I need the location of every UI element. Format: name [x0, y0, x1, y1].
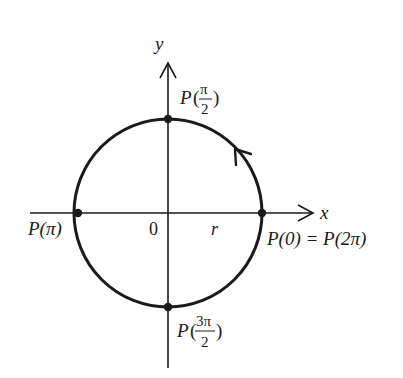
svg-text:3π: 3π	[196, 313, 212, 329]
svg-text:2: 2	[201, 101, 209, 117]
svg-text:P: P	[179, 87, 192, 108]
point-right	[258, 209, 266, 217]
point-bottom	[164, 303, 172, 311]
svg-text:P: P	[176, 320, 189, 341]
svg-text:2: 2	[201, 334, 209, 350]
label-bottom: P ( 3π 2 )	[176, 313, 222, 350]
svg-text:π: π	[200, 81, 208, 97]
radius-label: r	[211, 219, 219, 239]
label-left: P(π)	[27, 218, 62, 240]
label-top: P ( π 2 )	[179, 81, 219, 117]
label-right: P(0) = P(2π)	[266, 228, 366, 250]
svg-text:(: (	[193, 87, 199, 109]
x-axis-label: x	[319, 202, 329, 223]
unit-circle-diagram: y x 0 r P ( π 2 ) P(π) P(0) = P(2π) P ( …	[0, 0, 403, 378]
y-axis-label: y	[153, 33, 164, 54]
point-left	[74, 209, 82, 217]
origin-label: 0	[149, 219, 158, 239]
point-top	[164, 115, 172, 123]
svg-text:): )	[216, 320, 222, 342]
svg-text:): )	[213, 87, 219, 109]
